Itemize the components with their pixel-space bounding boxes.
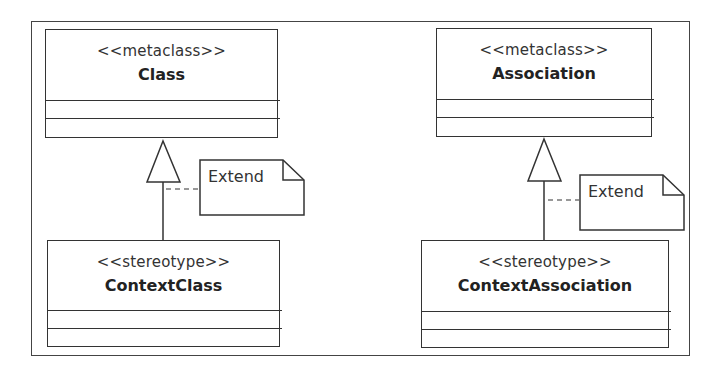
attributes-compartment-divider bbox=[437, 99, 654, 100]
class-header: <<metaclass>> Association bbox=[437, 29, 651, 84]
class-name: ContextClass bbox=[48, 276, 279, 296]
stereotype-contextclass-box[interactable]: <<stereotype>> ContextClass bbox=[47, 240, 280, 347]
class-name: Association bbox=[437, 64, 651, 84]
attributes-compartment-divider bbox=[46, 100, 280, 101]
operations-compartment-divider bbox=[422, 329, 671, 330]
note-text: Extend bbox=[208, 167, 264, 186]
stereotype-label: <<metaclass>> bbox=[437, 41, 651, 59]
stereotype-label: <<stereotype>> bbox=[422, 253, 668, 271]
note-extend-right[interactable]: Extend bbox=[579, 174, 685, 231]
operations-compartment-divider bbox=[437, 117, 654, 118]
class-header: <<stereotype>> ContextClass bbox=[48, 241, 279, 296]
metaclass-class-box[interactable]: <<metaclass>> Class bbox=[45, 29, 278, 138]
operations-compartment-divider bbox=[48, 328, 282, 329]
stereotype-label: <<metaclass>> bbox=[46, 42, 277, 60]
note-extend-left[interactable]: Extend bbox=[199, 159, 305, 216]
stereotype-contextassociation-box[interactable]: <<stereotype>> ContextAssociation bbox=[421, 240, 669, 348]
metaclass-association-box[interactable]: <<metaclass>> Association bbox=[436, 28, 652, 137]
operations-compartment-divider bbox=[46, 118, 280, 119]
class-name: Class bbox=[46, 65, 277, 85]
class-header: <<metaclass>> Class bbox=[46, 30, 277, 85]
attributes-compartment-divider bbox=[48, 310, 282, 311]
attributes-compartment-divider bbox=[422, 311, 671, 312]
note-text: Extend bbox=[588, 182, 644, 201]
class-name: ContextAssociation bbox=[422, 276, 668, 296]
class-header: <<stereotype>> ContextAssociation bbox=[422, 241, 668, 296]
stereotype-label: <<stereotype>> bbox=[48, 253, 279, 271]
